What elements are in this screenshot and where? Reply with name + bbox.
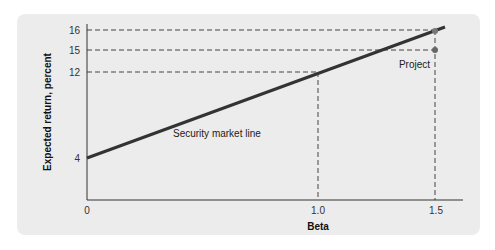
x-tick-1-5: 1.5 — [429, 205, 443, 216]
y-tick-15: 15 — [69, 45, 81, 56]
x-axis-label: Beta — [307, 221, 329, 232]
y-tick-12: 12 — [69, 67, 81, 78]
project-label: Project — [399, 59, 430, 70]
x-tick-1: 1.0 — [311, 205, 325, 216]
sml-point-beta-1-5 — [432, 28, 438, 34]
project-point — [432, 47, 438, 53]
reference-lines — [87, 30, 435, 200]
y-axis-label: Expected return, percent — [42, 52, 53, 170]
sml-label: Security market line — [173, 128, 261, 139]
y-tick-4: 4 — [74, 153, 80, 164]
x-tick-0: 0 — [84, 205, 90, 216]
chart-svg: 16 15 12 4 0 1.0 1.5 Security market lin… — [0, 0, 495, 250]
security-market-line — [87, 27, 445, 158]
y-tick-16: 16 — [69, 25, 81, 36]
